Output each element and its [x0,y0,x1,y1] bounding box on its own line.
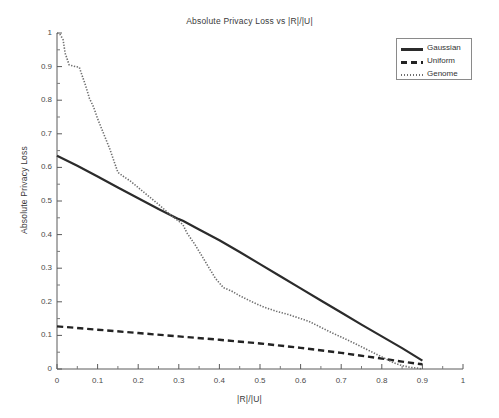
series-line-uniform [57,326,422,364]
y-tick-label: 0.7 [26,129,52,138]
legend-label: Gaussian [427,43,461,52]
x-tick-label: 0.2 [125,376,151,385]
y-tick-label: 0.1 [26,330,52,339]
y-tick-label: 0.3 [26,263,52,272]
y-axis-label: Absolute Privacy Loss [19,140,29,240]
chart-legend[interactable]: GaussianUniformGenome [396,38,472,80]
x-tick-label: 0.9 [409,376,435,385]
chart-page: Absolute Privacy Loss vs |R|/|U| 00.10.2… [0,0,499,418]
x-tick-label: 0.6 [288,376,314,385]
x-axis-ticks [57,364,463,369]
x-axis-label: |R|/|U| [0,394,499,404]
data-series-group [57,33,422,369]
y-tick-label: 0 [26,364,52,373]
axis-lines [57,33,463,369]
legend-swatch-solid-icon [401,48,423,51]
series-line-genome [57,33,422,369]
y-tick-label: 0.5 [26,196,52,205]
legend-item-genome[interactable]: Genome [397,68,473,82]
x-tick-label: 0.4 [206,376,232,385]
x-tick-label: 0.5 [247,376,273,385]
y-axis-ticks [57,33,62,369]
y-tick-label: 0.8 [26,95,52,104]
legend-item-gaussian[interactable]: Gaussian [397,42,473,56]
x-tick-label: 1 [450,376,476,385]
x-tick-label: 0.8 [369,376,395,385]
legend-item-uniform[interactable]: Uniform [397,55,473,69]
x-tick-label: 0.3 [166,376,192,385]
y-tick-label: 0.2 [26,297,52,306]
legend-swatch-dashed-icon [401,61,423,64]
y-tick-label: 0.9 [26,62,52,71]
y-tick-label: 1 [26,28,52,37]
x-tick-label: 0.1 [85,376,111,385]
y-tick-label: 0.4 [26,230,52,239]
legend-swatch-dotted-icon [401,74,423,76]
y-tick-label: 0.6 [26,162,52,171]
legend-label: Genome [427,69,458,78]
x-tick-label: 0.7 [328,376,354,385]
x-tick-label: 0 [44,376,70,385]
legend-label: Uniform [427,56,455,65]
